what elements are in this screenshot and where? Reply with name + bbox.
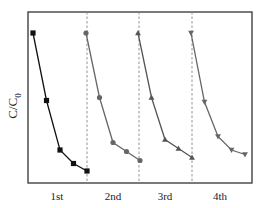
- data-point-triangle-down-marker: [242, 152, 248, 157]
- data-point-square-marker: [44, 98, 49, 103]
- data-point-square-marker: [57, 147, 62, 152]
- data-point-circle-marker: [110, 140, 115, 145]
- x-tick-3rd: 3rd: [158, 190, 173, 202]
- y-axis-label-main: C/C: [5, 98, 20, 119]
- data-point-triangle-up-marker: [162, 136, 168, 141]
- data-point-circle-marker: [124, 149, 129, 154]
- chart-plot-area: [0, 0, 263, 208]
- data-point-square-marker: [71, 161, 76, 166]
- series-2nd: [83, 30, 142, 163]
- data-point-triangle-down-marker: [202, 100, 208, 105]
- data-point-circle-marker: [83, 30, 88, 35]
- data-point-circle-marker: [97, 95, 102, 100]
- data-point-triangle-up-marker: [176, 145, 182, 150]
- plot-frame: [28, 12, 252, 183]
- x-tick-4th: 4th: [213, 190, 227, 202]
- x-tick-1st: 1st: [51, 190, 64, 202]
- data-point-triangle-down-marker: [188, 31, 194, 36]
- series-4th: [188, 31, 248, 158]
- series-1st: [30, 30, 89, 173]
- data-point-triangle-up-marker: [149, 94, 155, 99]
- data-point-triangle-up-marker: [135, 30, 141, 35]
- data-point-circle-marker: [137, 158, 142, 163]
- data-point-square-marker: [84, 168, 89, 173]
- y-axis-label-sub: 0: [13, 93, 23, 98]
- series-3rd: [135, 30, 195, 160]
- y-axis-label: C/C0: [2, 86, 26, 126]
- data-point-triangle-up-marker: [189, 154, 195, 159]
- data-point-square-marker: [30, 30, 35, 35]
- x-tick-2nd: 2nd: [105, 190, 122, 202]
